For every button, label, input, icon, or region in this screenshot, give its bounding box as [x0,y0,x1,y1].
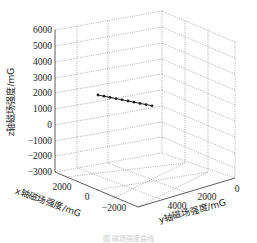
data-point-marker [151,104,154,107]
x-axis-label: x轴磁场强度/mG [14,185,83,219]
svg-text:4000: 4000 [33,57,52,67]
svg-text:0: 0 [85,192,90,202]
z-axis-label: z轴磁场强度/mG [5,68,16,137]
svg-text:3000: 3000 [33,73,52,83]
svg-text:2000: 2000 [53,182,72,192]
grid-lines [55,11,235,207]
svg-text:−1000: −1000 [28,136,53,146]
data-point-marker [121,98,124,101]
svg-text:0: 0 [47,120,52,130]
svg-text:2000: 2000 [33,88,52,98]
svg-text:0: 0 [235,184,240,194]
svg-text:−2000: −2000 [102,203,127,213]
data-point-marker [133,101,136,104]
svg-text:−2000: −2000 [28,151,53,161]
data-point-marker [115,97,118,100]
data-point-marker [127,100,130,103]
svg-text:1000: 1000 [33,104,52,114]
data-point-marker [97,94,100,97]
data-point-marker [109,96,112,99]
data-point-marker [139,102,142,105]
data-point-marker [145,103,148,106]
axes [55,30,235,207]
3d-line-chart: 6000 5000 4000 3000 2000 1000 0 −1000 −2… [0,0,257,243]
svg-text:−3000: −3000 [28,167,53,177]
svg-text:5000: 5000 [33,41,52,51]
data-point-marker [103,95,106,98]
z-tick-labels: 6000 5000 4000 3000 2000 1000 0 −1000 −2… [28,25,53,177]
svg-text:6000: 6000 [33,25,52,35]
figure-caption: 图 磁场强度曲线 [0,233,257,243]
